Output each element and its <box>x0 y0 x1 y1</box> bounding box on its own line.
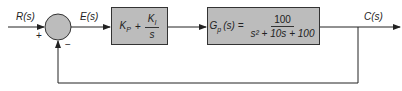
controller-fraction: KI s <box>145 13 160 40</box>
controller-kp: KP <box>120 20 131 33</box>
controller-block: KP + KI s <box>111 7 168 45</box>
output-label: C(s) <box>364 11 383 22</box>
block-diagram: R(s) + − E(s) C(s) KP + KI s Gp(s) = 100… <box>0 0 402 91</box>
minus-sign: − <box>65 39 71 50</box>
summing-junction <box>45 14 71 40</box>
error-label: E(s) <box>80 11 98 22</box>
plant-fraction: 100 s² + 10s + 100 <box>248 14 318 39</box>
plus-sign: + <box>36 30 42 41</box>
connections <box>0 0 402 91</box>
plant-block: Gp(s) = 100 s² + 10s + 100 <box>207 7 320 45</box>
input-label: R(s) <box>16 11 35 22</box>
controller-plus: + <box>135 21 141 32</box>
plant-gp: Gp(s) = <box>210 20 244 33</box>
